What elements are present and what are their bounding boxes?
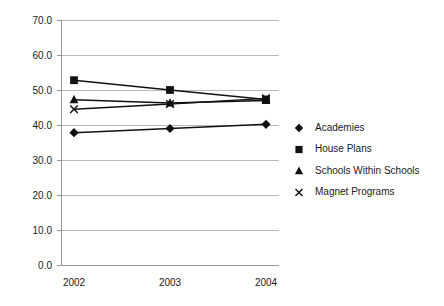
triangle-marker-icon-legend: [295, 167, 303, 175]
series-academies: [69, 120, 270, 138]
y-tick-label: 10.0: [33, 225, 53, 236]
legend-item-house-plans: House Plans: [295, 143, 371, 154]
y-tick-label: 40.0: [33, 120, 53, 131]
gridlines: [61, 20, 279, 265]
diamond-marker-icon: [69, 128, 78, 137]
legend-item-schools-within-schools: Schools Within Schools: [295, 165, 420, 176]
square-marker-icon: [166, 86, 174, 94]
chart-legend: AcademiesHouse PlansSchools Within Schoo…: [295, 122, 420, 198]
square-marker-icon: [70, 76, 78, 84]
x-tick-label: 2004: [255, 277, 278, 288]
y-tick-label: 60.0: [33, 50, 53, 61]
diamond-marker-icon-legend: [295, 124, 303, 132]
y-tick-label: 70.0: [33, 15, 53, 26]
legend-item-label: Academies: [315, 122, 364, 133]
legend-item-label: House Plans: [315, 143, 372, 154]
chart-canvas: 0.010.020.030.040.050.060.070.0 20022003…: [0, 0, 444, 306]
square-marker-icon-legend: [295, 146, 302, 153]
legend-item-academies: Academies: [295, 122, 365, 133]
x-tick-label: 2003: [159, 277, 182, 288]
diamond-marker-icon: [261, 120, 270, 129]
x-tick-label: 2002: [63, 277, 86, 288]
y-tick-label: 50.0: [33, 85, 53, 96]
legend-item-label: Schools Within Schools: [315, 165, 420, 176]
legend-item-label: Magnet Programs: [315, 186, 394, 197]
y-tick-label: 30.0: [33, 155, 53, 166]
y-tick-label: 20.0: [33, 190, 53, 201]
triangle-marker-icon: [70, 95, 79, 103]
y-axis-tick-labels: 0.010.020.030.040.050.060.070.0: [33, 15, 61, 271]
line-chart: 0.010.020.030.040.050.060.070.0 20022003…: [0, 0, 444, 306]
legend-item-magnet-programs: Magnet Programs: [296, 186, 395, 197]
x-axis-tick-labels: 200220032004: [63, 277, 278, 288]
x-marker-icon-legend: [296, 189, 303, 196]
data-series-group: [69, 76, 270, 137]
y-tick-label: 0.0: [38, 260, 52, 271]
